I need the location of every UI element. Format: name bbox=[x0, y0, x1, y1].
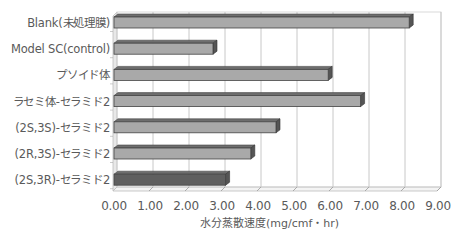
category-label: Model SC(control) bbox=[11, 42, 110, 56]
category-label: プソイド体 bbox=[56, 68, 110, 82]
x-tick-label: 4.00 bbox=[245, 199, 271, 213]
category-label: Blank(未処理膜) bbox=[27, 16, 110, 30]
bar-top bbox=[114, 14, 413, 17]
bar-top bbox=[114, 171, 230, 174]
bar-top bbox=[114, 119, 280, 122]
category-label: (2R,3S)-セラミド2 bbox=[15, 147, 110, 161]
category-label: ラセミ体-セラミド2 bbox=[13, 95, 110, 109]
x-tick-label: 7.00 bbox=[353, 199, 379, 213]
bar bbox=[114, 174, 226, 185]
x-tick-label: 3.00 bbox=[209, 199, 235, 213]
bar bbox=[114, 96, 361, 107]
bar bbox=[114, 148, 251, 159]
x-tick-label: 0.00 bbox=[101, 199, 127, 213]
x-tick-label: 5.00 bbox=[281, 199, 307, 213]
bar bbox=[114, 17, 409, 28]
x-axis-title: 水分蒸散速度(mg/cmf・hr) bbox=[200, 214, 339, 230]
x-tick-label: 2.00 bbox=[173, 199, 199, 213]
bar-top bbox=[114, 145, 255, 148]
bar-top bbox=[114, 93, 365, 96]
bar bbox=[114, 43, 213, 54]
bar bbox=[114, 69, 328, 80]
x-tick-label: 9.00 bbox=[425, 199, 451, 213]
bar-top bbox=[114, 40, 217, 43]
category-label: (2S,3S)-セラミド2 bbox=[15, 121, 110, 135]
bar-top bbox=[114, 66, 332, 69]
x-tick-label: 1.00 bbox=[137, 199, 163, 213]
bar bbox=[114, 122, 276, 133]
x-tick-label: 8.00 bbox=[389, 199, 415, 213]
category-label: (2S,3R)-セラミド2 bbox=[15, 173, 110, 187]
x-tick-label: 6.00 bbox=[317, 199, 343, 213]
floor bbox=[113, 187, 441, 191]
